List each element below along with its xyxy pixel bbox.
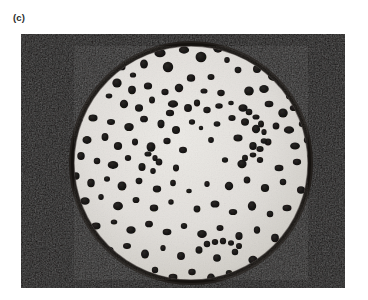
bacterial-colony: [204, 181, 209, 187]
bacterial-colony: [229, 209, 237, 215]
bacterial-colony: [233, 135, 242, 142]
bacterial-colony: [88, 115, 97, 122]
bacterial-colony: [211, 200, 220, 207]
bacterial-colony: [280, 179, 287, 186]
bacterial-colony: [284, 126, 294, 133]
bacterial-colony: [107, 119, 115, 125]
bacterial-colony: [98, 194, 104, 200]
bacterial-colony: [150, 205, 158, 212]
bacterial-colony: [126, 226, 135, 234]
bacterial-colony: [168, 100, 178, 107]
panel-label: (c): [13, 13, 25, 23]
bacterial-colony: [108, 161, 119, 169]
bacterial-colony: [197, 230, 207, 238]
bacterial-colony: [224, 57, 230, 63]
bacterial-colony: [172, 126, 180, 134]
bacterial-colony: [228, 240, 234, 246]
bacterial-colony: [257, 157, 263, 163]
bacterial-colony: [261, 184, 269, 192]
bacterial-colony: [256, 146, 263, 152]
bacterial-colony: [184, 104, 192, 112]
bacterial-colony: [102, 133, 109, 141]
bacterial-colony: [111, 219, 117, 224]
bacterial-colony: [212, 239, 218, 245]
bacterial-colony: [118, 182, 127, 191]
bacterial-colony: [186, 189, 191, 194]
bacterial-colony: [265, 101, 274, 108]
bacterial-colony: [179, 147, 187, 154]
bacterial-colony: [173, 165, 179, 172]
bacterial-colony: [225, 182, 233, 191]
bacterial-colony: [168, 199, 173, 204]
bacterial-colony: [215, 103, 222, 109]
bacterial-colony: [208, 74, 215, 80]
bacterial-colony: [179, 46, 189, 53]
bacterial-colony: [128, 86, 136, 94]
bacterial-colony: [278, 109, 288, 118]
bacterial-colony: [213, 254, 221, 262]
bacterial-colony: [214, 121, 221, 127]
figure-panel: (c): [0, 0, 368, 300]
bacterial-colony: [125, 155, 131, 161]
bacterial-colony: [138, 163, 145, 171]
bacterial-colony: [203, 107, 210, 113]
bacterial-colony: [258, 120, 264, 127]
bacterial-colony: [235, 67, 242, 73]
bacterial-colony: [141, 250, 149, 259]
bacterial-colony: [163, 138, 170, 145]
bacterial-colony: [196, 52, 207, 63]
bacterial-colony: [104, 176, 110, 182]
bacterial-colony: [188, 269, 195, 275]
bacterial-colony: [293, 159, 301, 165]
bacterial-colony: [132, 139, 138, 146]
bacterial-colony: [177, 252, 185, 260]
bacterial-colony: [160, 245, 165, 251]
bacterial-colony: [82, 136, 91, 144]
bacterial-colony: [228, 115, 235, 121]
bacterial-colony: [145, 221, 153, 228]
bacterial-colony: [194, 206, 201, 213]
bacterial-colony: [261, 138, 268, 144]
bacterial-colony: [163, 229, 172, 236]
bacterial-colony: [161, 89, 168, 96]
bacterial-colony: [254, 226, 260, 233]
bacterial-colony: [189, 119, 195, 124]
bacterial-colony: [147, 142, 156, 152]
bacterial-colony: [112, 78, 121, 87]
bacterial-colony: [194, 100, 200, 107]
bacterial-colony: [217, 225, 224, 231]
bacterial-colony: [217, 90, 225, 96]
bacterial-colony: [283, 205, 292, 211]
bacterial-colony: [120, 100, 128, 109]
bacterial-colony: [200, 88, 207, 93]
bacterial-colony: [114, 142, 122, 150]
bacterial-colony: [244, 87, 254, 96]
bacterial-colony: [135, 104, 143, 111]
bacterial-colony: [250, 153, 257, 158]
bacterial-colony: [106, 94, 113, 99]
bacterial-colony: [166, 110, 174, 116]
bacterial-colony: [242, 155, 248, 161]
bacterial-colony: [157, 120, 164, 128]
photograph-canvas: [21, 34, 345, 288]
bacterial-colony: [249, 142, 256, 150]
bacterial-colony: [144, 151, 151, 156]
bacterial-colony: [228, 101, 233, 106]
bacterial-colony: [252, 114, 259, 119]
bacterial-colony: [275, 165, 284, 171]
bacterial-colony: [241, 118, 249, 125]
bacterial-colony: [123, 243, 131, 249]
bacterial-colony: [124, 123, 133, 131]
bacterial-colony: [235, 232, 242, 240]
bacterial-colony: [170, 180, 176, 187]
bacterial-colony: [77, 152, 85, 160]
bacterial-colony: [130, 72, 136, 77]
bacterial-colony: [133, 197, 140, 203]
bacterial-colony: [152, 155, 157, 161]
bacterial-colony: [153, 186, 161, 193]
bacterial-colony: [222, 157, 228, 162]
bacterial-colony: [208, 137, 214, 143]
bacterial-colony: [94, 158, 101, 165]
bacterial-colony: [261, 129, 266, 135]
bacterial-colony: [259, 85, 269, 93]
